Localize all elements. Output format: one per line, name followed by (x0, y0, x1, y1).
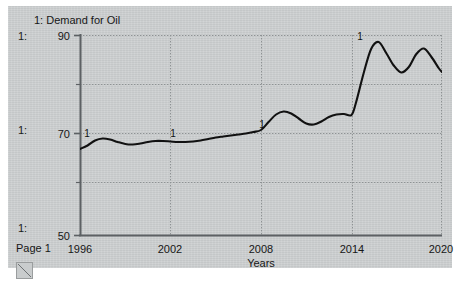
gridline-vertical-group (171, 35, 442, 235)
series-point-marker-2: 1 (170, 128, 176, 139)
series-point-marker-1: 1 (84, 128, 90, 139)
series-point-marker-3: 1 (259, 119, 265, 130)
chart-window: 1: 1: 1: 1: Demand for Oil Page 1 (0, 0, 464, 288)
x-axis-title: Years (247, 257, 275, 269)
y-tick-label-90: 90 (58, 30, 70, 42)
x-tick-label-2002: 2002 (158, 243, 182, 255)
x-tick-label-1996: 1996 (68, 243, 92, 255)
x-tick-label-2008: 2008 (249, 243, 273, 255)
y-tick-label-50: 50 (58, 230, 70, 242)
series-point-marker-4: 1 (357, 31, 363, 42)
y-tick-label-70: 70 (58, 128, 70, 140)
x-tick-label-2014: 2014 (340, 243, 364, 255)
x-tick-label-2020: 2020 (429, 243, 453, 255)
chart-plot-area: 90 70 50 1996 2002 2008 2014 2020 Years … (0, 0, 464, 288)
